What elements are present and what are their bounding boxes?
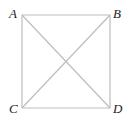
vertex-label-b: B [113, 6, 121, 21]
geometry-diagram: A B C D [0, 0, 133, 125]
vertex-label-a: A [8, 6, 17, 21]
square-figure: A B C D [0, 0, 133, 125]
vertex-label-d: D [112, 101, 123, 116]
vertex-label-c: C [9, 101, 18, 116]
